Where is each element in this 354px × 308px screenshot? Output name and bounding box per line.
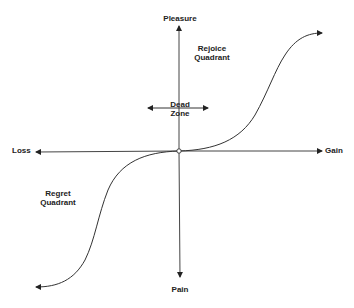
dead-zone-line2: Zone <box>165 109 195 118</box>
label-pain: Pain <box>165 285 195 294</box>
label-gain: Gain <box>325 146 349 155</box>
label-regret-quadrant: Regret Quadrant <box>36 189 80 207</box>
label-dead-zone: Dead Zone <box>165 100 195 118</box>
label-rejoice-quadrant: Rejoice Quadrant <box>190 44 234 62</box>
regret-line2: Quadrant <box>36 198 80 207</box>
y-axis-pain <box>179 151 180 277</box>
x-axis-loss <box>36 151 179 152</box>
rejoice-line1: Rejoice <box>190 44 234 53</box>
utility-curve-lower <box>36 151 179 287</box>
label-loss: Loss <box>12 146 36 155</box>
dead-zone-line1: Dead <box>165 100 195 109</box>
regret-line1: Regret <box>36 189 80 198</box>
origin-point <box>177 149 181 153</box>
rejoice-line2: Quadrant <box>190 53 234 62</box>
utility-curve-diagram <box>0 0 354 308</box>
label-pleasure: Pleasure <box>161 14 199 23</box>
